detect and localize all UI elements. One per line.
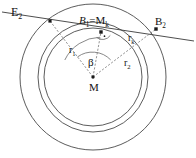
label-r2-sub: 2 [127,63,130,70]
diagram-canvas: E2 B1=Mk B2 r1 rk r2 β M [0,0,196,158]
right-angle-dot [104,35,106,37]
label-r1-sub: 1 [72,50,75,57]
radius-r2-to-b2 [93,29,156,77]
label-center-m: M [89,81,99,93]
label-b2-sub: 2 [162,22,166,30]
label-radius-rk: rk [128,32,135,45]
point-b1-marker [99,30,102,33]
label-e2-base: E [11,5,18,19]
label-e2-sub: 2 [18,12,22,21]
label-radius-r2: r2 [124,57,131,70]
point-b2-marker [154,27,157,30]
point-center-m-marker [91,75,94,78]
label-secant-e2: E2 [11,5,22,21]
angle-beta-arc [78,52,111,60]
radius-rk-to-b1 [93,32,101,77]
label-angle-beta: β [88,56,94,68]
label-mk-sub: k [105,21,109,29]
label-radius-r1: r1 [69,44,76,57]
label-tangent-point-b1-mk: B1=Mk [79,14,109,29]
label-b2-base: B [155,15,162,27]
geometry-figure: E2 B1=Mk B2 r1 rk r2 β M [0,0,196,158]
label-mk-base: M [96,14,106,26]
point-left-intersection-marker [48,19,51,22]
